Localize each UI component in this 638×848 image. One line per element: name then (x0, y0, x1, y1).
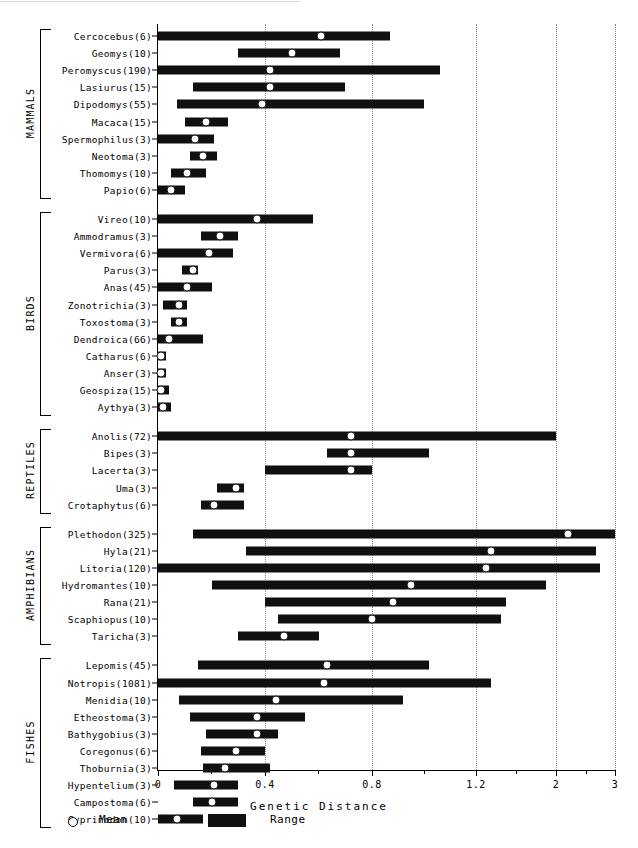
group-bracket-amphibians (40, 527, 51, 646)
mean-marker (231, 483, 240, 492)
range-bar (158, 432, 556, 441)
row-tick (152, 121, 158, 122)
range-bar (278, 615, 501, 624)
top-rule (0, 1, 300, 2)
mean-marker (156, 351, 165, 360)
range-bar (158, 134, 214, 143)
row-tick (152, 619, 158, 620)
row-tick (152, 236, 158, 237)
taxon-label: Rana(21) (104, 597, 152, 608)
mean-marker (252, 729, 261, 738)
gridline-4 (615, 24, 616, 770)
x-tick-label-3: 3 (612, 779, 619, 790)
taxon-label: Peromyscus(190) (62, 65, 152, 76)
row-tick (152, 270, 158, 271)
taxon-label: Anas(45) (104, 282, 152, 293)
row-tick (152, 585, 158, 586)
mean-marker (210, 781, 219, 790)
taxon-label: Lepomis(45) (86, 660, 152, 671)
taxon-label: Vireo(10) (98, 214, 152, 225)
range-bar (158, 215, 313, 224)
range-bar (193, 529, 615, 538)
mean-marker (191, 134, 200, 143)
mean-marker (231, 746, 240, 755)
row-tick (152, 665, 158, 666)
mean-marker (482, 563, 491, 572)
mean-marker (215, 232, 224, 241)
x-tick-0 (158, 770, 159, 776)
gridline-2 (476, 24, 477, 770)
group-bracket-reptiles (40, 429, 51, 513)
range-bar (190, 712, 305, 721)
taxon-label: Taricha(3) (92, 631, 152, 642)
taxon-label: Coregonus(6) (80, 745, 152, 756)
taxon-label: Parus(3) (104, 265, 152, 276)
taxon-label: Zonotrichia(3) (68, 299, 152, 310)
mean-marker (368, 615, 377, 624)
taxon-label: Etheostoma(3) (74, 711, 152, 722)
group-label-amphibians: AMPHIBIANS (25, 549, 36, 621)
group-label-mammals: MAMMALS (25, 88, 36, 139)
mean-marker (202, 117, 211, 126)
row-tick (152, 53, 158, 54)
range-bar (246, 546, 595, 555)
row-tick (152, 550, 158, 551)
row-tick (152, 172, 158, 173)
taxon-label: Hydromantes(10) (62, 580, 152, 591)
row-tick (152, 699, 158, 700)
mean-marker (183, 283, 192, 292)
x-tick-label-0.8: 0.8 (362, 779, 382, 790)
gridline-0 (265, 24, 266, 770)
mean-marker (346, 432, 355, 441)
mean-marker (317, 32, 326, 41)
row-tick (152, 768, 158, 769)
taxon-label: Dipodomys(55) (74, 99, 152, 110)
row-tick (152, 155, 158, 156)
taxon-label: Hyla(21) (104, 545, 152, 556)
x-minor-tick-2 (424, 770, 425, 774)
x-tick-label-0.4: 0.4 (255, 779, 275, 790)
gridline-1 (372, 24, 373, 770)
mean-marker (279, 632, 288, 641)
range-bar (212, 581, 547, 590)
taxon-label: Campostoma(6) (74, 797, 152, 808)
range-bar (179, 695, 403, 704)
row-tick (152, 504, 158, 505)
mean-marker (164, 334, 173, 343)
chart-legend: Mean Range (24, 812, 404, 834)
taxon-label: Uma(3) (116, 482, 152, 493)
taxon-label: Neotoma(3) (92, 150, 152, 161)
row-tick (152, 87, 158, 88)
mean-symbol-icon (68, 817, 78, 827)
mean-marker (156, 386, 165, 395)
taxon-label: Menidia(10) (86, 694, 152, 705)
group-bracket-birds (40, 212, 51, 416)
mean-marker (210, 500, 219, 509)
legend-mean-label: Mean (99, 813, 128, 826)
x-minor-tick-3 (516, 770, 517, 774)
mean-marker (319, 678, 328, 687)
taxon-label: Plethodon(325) (68, 528, 152, 539)
taxon-label: Lasiurus(15) (80, 82, 152, 93)
range-bar (203, 764, 270, 773)
x-minor-tick-1 (318, 770, 319, 774)
legend-range-label: Range (270, 813, 306, 826)
x-tick-3 (615, 770, 616, 776)
taxon-label: Litoria(120) (80, 562, 152, 573)
mean-marker (188, 266, 197, 275)
mean-marker (346, 449, 355, 458)
taxon-label: Catharus(6) (86, 350, 152, 361)
row-tick (152, 602, 158, 603)
group-label-reptiles: REPTILES (25, 442, 36, 500)
row-tick (152, 321, 158, 322)
row-tick (152, 750, 158, 751)
row-tick (152, 533, 158, 534)
mean-marker (258, 100, 267, 109)
mean-marker (204, 249, 213, 258)
range-bar (265, 466, 372, 475)
taxon-label: Aythya(3) (98, 402, 152, 413)
group-label-fishes: FISHES (25, 721, 36, 764)
taxon-label: Crotaphytus(6) (68, 499, 152, 510)
row-tick (152, 453, 158, 454)
mean-marker (252, 215, 261, 224)
